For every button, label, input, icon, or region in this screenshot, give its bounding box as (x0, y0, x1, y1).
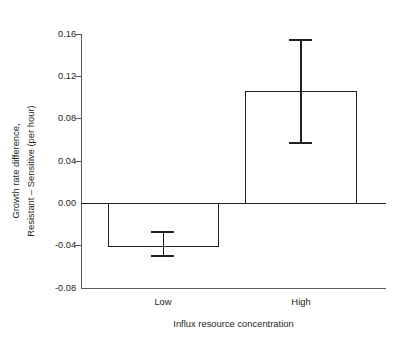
y-axis-title-line2: Resistant – Sensitive (per hour) (23, 105, 38, 236)
error-bar-cap-lower-low (151, 255, 174, 257)
error-bar-cap-lower-high (289, 142, 312, 144)
error-bar-cap-upper-high (289, 39, 312, 41)
error-bar-stem-low (163, 232, 165, 257)
error-bar-stem-high (300, 40, 302, 144)
y-tick-label: -0.08 (42, 283, 76, 293)
y-tick-label: 0.04 (42, 156, 76, 166)
error-bar-cap-upper-low (151, 231, 174, 233)
y-tick-label: 0.16 (42, 29, 76, 39)
y-tick-label: 0.00 (42, 198, 76, 208)
y-tick-label: 0.08 (42, 113, 76, 123)
bar-chart-figure: Growth rate difference, Resistant – Sens… (0, 0, 398, 341)
y-axis-line (81, 34, 82, 289)
x-tick-label-high: High (256, 296, 346, 307)
y-tick-label: -0.04 (42, 240, 76, 250)
x-tick-label-low: Low (118, 296, 208, 307)
y-tick-label: 0.12 (42, 71, 76, 81)
y-axis-title-line1: Growth rate difference, (9, 105, 24, 236)
x-axis-title: Influx resource concentration (81, 318, 386, 329)
y-axis-tick-labels: 0.16 0.12 0.08 0.04 0.00 -0.04 -0.08 (40, 0, 76, 341)
x-axis-line (81, 288, 386, 289)
